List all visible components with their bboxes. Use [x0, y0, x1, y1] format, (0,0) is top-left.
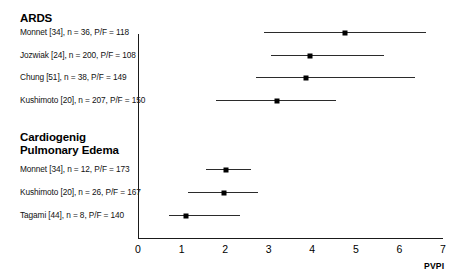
ci-line	[256, 77, 415, 78]
x-tick-label-2: 2	[222, 243, 228, 255]
x-axis-title: PVPI	[424, 261, 444, 271]
x-axis-line	[138, 238, 443, 239]
ci-line	[271, 55, 384, 56]
plot-area: 01234567	[0, 0, 467, 278]
ci-line	[206, 169, 251, 170]
x-tick-label-3: 3	[266, 243, 272, 255]
x-tick-label-0: 0	[135, 243, 141, 255]
point-marker	[183, 213, 188, 218]
point-marker	[303, 75, 308, 80]
point-marker	[224, 167, 229, 172]
point-marker	[342, 30, 347, 35]
ci-line	[169, 215, 241, 216]
point-marker	[222, 190, 227, 195]
x-tick-label-6: 6	[397, 243, 403, 255]
forest-plot-figure: ARDS Cardiogenig Pulmonary Edema Monnet …	[0, 0, 467, 278]
x-tick-label-4: 4	[309, 243, 315, 255]
point-marker	[308, 53, 313, 58]
y-axis-line	[138, 34, 139, 238]
point-marker	[275, 98, 280, 103]
x-tick-label-7: 7	[440, 243, 446, 255]
x-tick-label-1: 1	[179, 243, 185, 255]
x-tick-label-5: 5	[353, 243, 359, 255]
